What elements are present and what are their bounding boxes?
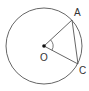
diagram-canvas: O A C bbox=[0, 0, 89, 91]
radius-OC bbox=[44, 46, 78, 64]
circle-diagram: O A C bbox=[0, 0, 89, 91]
radius-OA bbox=[44, 20, 72, 46]
label-C: C bbox=[79, 65, 86, 76]
label-O: O bbox=[40, 52, 48, 63]
angle-arc-AOC bbox=[51, 40, 53, 50]
center-point bbox=[42, 44, 46, 48]
label-A: A bbox=[74, 7, 81, 18]
